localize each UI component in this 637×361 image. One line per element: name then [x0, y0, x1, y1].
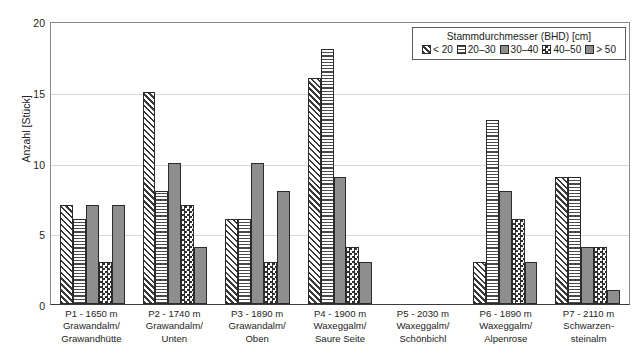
bar	[321, 49, 334, 304]
bar-group-bars	[299, 23, 382, 304]
x-label-line: Grawandalm/	[217, 320, 298, 332]
bar-group	[381, 23, 464, 304]
bar-group-bars	[464, 23, 547, 304]
legend-title: Stammdurchmesser (BHD) [cm]	[418, 31, 620, 42]
y-tick-label: 5	[39, 229, 45, 241]
gridline: 0	[51, 306, 629, 307]
bar	[555, 177, 568, 304]
x-label-line: P6 - 1890 m	[465, 308, 546, 320]
x-label-line: P4 - 1900 m	[300, 308, 381, 320]
legend-swatch-icon	[457, 45, 466, 54]
bar	[181, 205, 194, 304]
bar	[308, 78, 321, 304]
x-label-line: Oben	[217, 333, 298, 345]
x-label-line: Grawandalm/	[134, 320, 215, 332]
legend-item[interactable]: 40–50	[542, 44, 581, 55]
bar	[486, 120, 499, 304]
legend-item[interactable]: > 50	[585, 44, 616, 55]
x-label-line: Waxeggalm/	[300, 320, 381, 332]
bar	[525, 262, 538, 304]
legend-swatch-icon	[500, 45, 509, 54]
bar	[99, 262, 112, 304]
legend-item[interactable]: < 20	[422, 44, 453, 55]
bar-groups	[51, 23, 629, 304]
x-label-line: Unten	[134, 333, 215, 345]
bar	[251, 163, 264, 305]
bar-group-bars	[381, 23, 464, 304]
x-label-line: Grawandalm/	[51, 320, 132, 332]
bar-group	[134, 23, 217, 304]
x-axis-group-label: P1 - 1650 mGrawandalm/Grawandhütte	[50, 308, 133, 345]
x-label-line: P2 - 1740 m	[134, 308, 215, 320]
x-label-line: Waxeggalm/	[465, 320, 546, 332]
bar	[168, 163, 181, 305]
bar	[112, 205, 125, 304]
bar	[334, 177, 347, 304]
bar	[73, 219, 86, 304]
bar-group	[51, 23, 134, 304]
x-label-line: P1 - 1650 m	[51, 308, 132, 320]
bar	[594, 247, 607, 304]
bar-group-bars	[51, 23, 134, 304]
legend: Stammdurchmesser (BHD) [cm] < 2020–3030–…	[412, 27, 626, 60]
y-tick-label: 20	[33, 17, 45, 29]
x-label-line: Saure Seite	[300, 333, 381, 345]
bar-group	[546, 23, 629, 304]
legend-swatch-icon	[585, 45, 594, 54]
x-label-line: Alpenrose	[465, 333, 546, 345]
bar-group	[464, 23, 547, 304]
x-label-line: Grawandhütte	[51, 333, 132, 345]
bar	[143, 92, 156, 304]
bar-group-bars	[546, 23, 629, 304]
y-axis-title: Anzahl [Stück]	[20, 59, 32, 199]
legend-items: < 2020–3030–4040–50> 50	[418, 44, 620, 55]
x-axis-group-label: P6 - 1890 mWaxeggalm/Alpenrose	[464, 308, 547, 345]
bar	[238, 219, 251, 304]
bar-chart-figure: Anzahl [Stück] 05101520 P1 - 1650 mGrawa…	[0, 0, 637, 361]
bar	[581, 247, 594, 304]
x-label-line: P3 - 1890 m	[217, 308, 298, 320]
x-axis-group-label: P5 - 2030 mWaxeggalm/Schönbichl	[381, 308, 464, 345]
bar	[225, 219, 238, 304]
legend-label: 40–50	[553, 44, 581, 55]
x-label-line: P7 - 2110 m	[548, 308, 629, 320]
bar	[155, 191, 168, 304]
bar	[568, 177, 581, 304]
x-label-line: steinalm	[548, 333, 629, 345]
x-label-line: Waxeggalm/	[382, 320, 463, 332]
y-tick-label: 10	[33, 159, 45, 171]
bar	[607, 290, 620, 304]
bar-group-bars	[134, 23, 217, 304]
x-label-line: Schwarzen-	[548, 320, 629, 332]
legend-swatch-icon	[542, 45, 551, 54]
legend-item[interactable]: 20–30	[457, 44, 496, 55]
bar	[499, 191, 512, 304]
bar	[277, 191, 290, 304]
bar	[194, 247, 207, 304]
x-label-line: Schönbichl	[382, 333, 463, 345]
y-tick-label: 15	[33, 88, 45, 100]
bar-group-bars	[216, 23, 299, 304]
legend-label: < 20	[433, 44, 453, 55]
x-label-line: P5 - 2030 m	[382, 308, 463, 320]
legend-label: 30–40	[511, 44, 539, 55]
x-axis-group-label: P4 - 1900 mWaxeggalm/Saure Seite	[299, 308, 382, 345]
x-axis-group-label: P3 - 1890 mGrawandalm/Oben	[216, 308, 299, 345]
bar	[473, 262, 486, 304]
y-tick-label: 0	[39, 300, 45, 312]
bar	[86, 205, 99, 304]
bar	[346, 247, 359, 304]
legend-label: 20–30	[468, 44, 496, 55]
legend-swatch-icon	[422, 45, 431, 54]
bar-group	[299, 23, 382, 304]
plot-area: 05101520	[50, 22, 630, 305]
legend-item[interactable]: 30–40	[500, 44, 539, 55]
bar	[512, 219, 525, 304]
x-axis-labels: P1 - 1650 mGrawandalm/GrawandhütteP2 - 1…	[50, 308, 630, 345]
bar	[60, 205, 73, 304]
bar-group	[216, 23, 299, 304]
bar	[359, 262, 372, 304]
legend-label: > 50	[596, 44, 616, 55]
bar	[264, 262, 277, 304]
x-axis-group-label: P2 - 1740 mGrawandalm/Unten	[133, 308, 216, 345]
